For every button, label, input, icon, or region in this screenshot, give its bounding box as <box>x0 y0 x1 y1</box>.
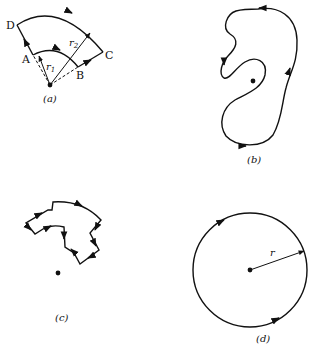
arrow-icon <box>58 49 60 50</box>
figure-canvas: D A B C r1 r2 (a) (b) (c) <box>0 0 321 349</box>
caption-c: (c) <box>55 312 69 323</box>
arrow-icon <box>89 60 91 61</box>
arrow-icon <box>95 228 96 230</box>
arrow-icon <box>71 249 72 250</box>
label-D: D <box>6 19 15 32</box>
point-charge <box>248 268 253 273</box>
closed-loop <box>221 8 297 144</box>
label-r1: r1 <box>46 61 55 74</box>
arrow-icon <box>70 12 72 13</box>
arrow-icon <box>24 39 25 41</box>
panel-b: (b) <box>221 8 297 165</box>
closed-polygon-path <box>26 202 101 264</box>
panel-d: r (d) <box>193 213 307 344</box>
arrow-icon <box>277 318 279 319</box>
caption-a: (a) <box>43 93 57 104</box>
caption-d: (d) <box>256 333 270 344</box>
arrow-icon <box>222 220 224 221</box>
panel-c: (c) <box>26 202 101 323</box>
label-B: B <box>76 69 84 82</box>
point-charge <box>56 271 61 276</box>
arrow-icon <box>289 68 290 71</box>
point-charge <box>251 79 256 84</box>
radius-arrow <box>250 251 304 270</box>
label-A: A <box>21 53 31 66</box>
point-charge <box>48 83 53 88</box>
arrow-icon <box>49 226 51 227</box>
outer-arc <box>17 16 103 52</box>
label-C: C <box>105 49 113 62</box>
label-r: r <box>270 247 276 258</box>
arrow-icon <box>40 213 42 214</box>
arrow-icon <box>95 244 96 246</box>
arrow-icon <box>80 205 82 206</box>
panel-a: D A B C r1 r2 (a) <box>6 12 113 104</box>
label-r2: r2 <box>69 37 79 50</box>
caption-b: (b) <box>247 154 261 165</box>
arrow-icon <box>88 257 90 258</box>
